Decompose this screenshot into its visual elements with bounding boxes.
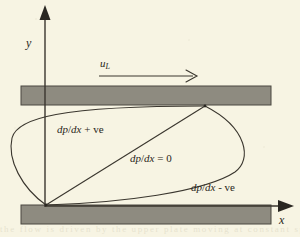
x-axis-arrowhead-icon	[278, 200, 294, 212]
label-negative-numerator: dp	[191, 181, 202, 193]
x-axis-label: x	[279, 214, 284, 226]
velocity-subscript: L	[106, 62, 110, 71]
couette-flow-figure: y x uL dp/dx + ve dp/dx = 0 dp/dx - ve t…	[0, 0, 300, 237]
top-plate	[21, 86, 271, 105]
label-negative-denominator: dx	[205, 181, 215, 193]
label-positive-numerator: dp	[57, 123, 68, 135]
label-negative-suffix: - ve	[218, 181, 235, 193]
label-profile-zero: dp/dx = 0	[130, 153, 172, 164]
label-zero-numerator: dp	[130, 152, 141, 164]
profile-curve-zero	[46, 106, 205, 205]
y-axis-label: y	[26, 37, 31, 49]
origin-convergence-point	[45, 204, 48, 207]
bottom-plate	[21, 205, 271, 224]
label-profile-negative: dp/dx - ve	[191, 182, 235, 193]
label-positive-denominator: dx	[71, 123, 81, 135]
label-positive-suffix: + ve	[84, 123, 103, 135]
velocity-arrow-label: uL	[100, 58, 110, 71]
y-axis-arrowhead-icon	[40, 5, 51, 20]
label-zero-denominator: dx	[144, 152, 154, 164]
top-convergence-point	[204, 105, 207, 108]
label-profile-positive: dp/dx + ve	[57, 124, 104, 135]
profile-curve-positive	[11, 106, 205, 205]
diagram-canvas	[0, 0, 300, 237]
label-zero-suffix: = 0	[157, 152, 171, 164]
